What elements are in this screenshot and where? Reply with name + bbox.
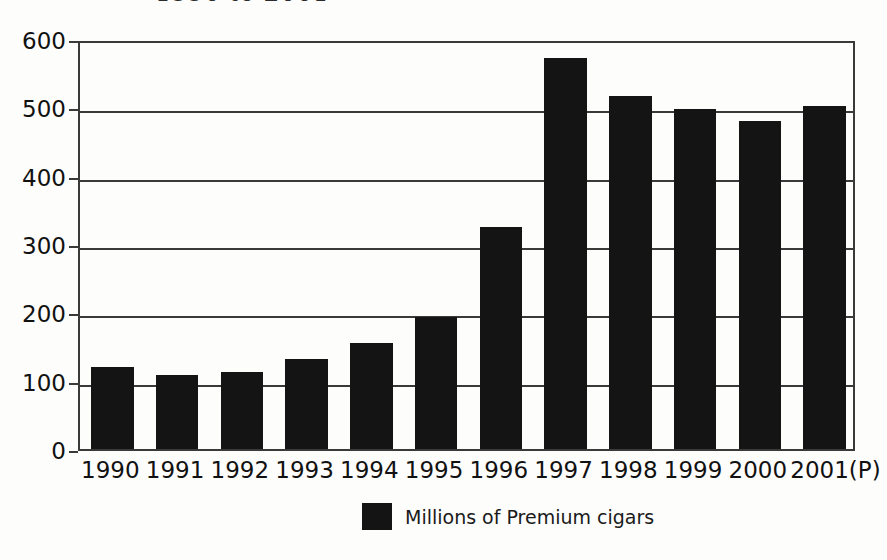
- y-tick-label-200: 200: [6, 301, 66, 327]
- bar-1992: [221, 372, 263, 449]
- y-tick-label-600: 600: [6, 28, 66, 54]
- legend-label-premium-cigars: Millions of Premium cigars: [405, 506, 654, 528]
- bar-1991: [156, 375, 198, 449]
- y-tick-label-100: 100: [6, 370, 66, 396]
- x-tick-label-1993: 1993: [272, 457, 337, 483]
- x-tick-label-1994: 1994: [337, 457, 402, 483]
- legend-swatch-premium-cigars: [362, 503, 392, 530]
- y-tick-label-0: 0: [6, 438, 66, 464]
- x-tick-label-1995: 1995: [402, 457, 467, 483]
- y-tick-mark-0: [69, 451, 78, 453]
- x-tick-label-1990: 1990: [78, 457, 143, 483]
- bar-1996: [480, 227, 522, 449]
- y-tick-mark-600: [69, 41, 78, 43]
- bar-2000: [739, 121, 781, 449]
- y-tick-mark-500: [69, 109, 78, 111]
- y-tick-mark-400: [69, 178, 78, 180]
- bar-1993: [285, 359, 327, 449]
- y-tick-label-300: 300: [6, 233, 66, 259]
- x-tick-label-2001(P): 2001(P): [790, 457, 855, 483]
- bar-1999: [674, 109, 716, 449]
- bar-1995: [415, 317, 457, 449]
- y-tick-label-500: 500: [6, 96, 66, 122]
- chart-page: 1990 to 2001 0100200300400500600 1990199…: [0, 0, 887, 560]
- x-tick-label-1996: 1996: [467, 457, 532, 483]
- bar-2001(P): [803, 106, 845, 449]
- gridline-200: [80, 316, 853, 318]
- plot-area: [78, 41, 855, 451]
- x-tick-label-1991: 1991: [143, 457, 208, 483]
- bar-1998: [609, 96, 651, 449]
- y-tick-mark-100: [69, 383, 78, 385]
- y-tick-mark-200: [69, 314, 78, 316]
- legend: Millions of Premium cigars: [362, 503, 654, 530]
- bar-1994: [350, 343, 392, 449]
- y-tick-label-400: 400: [6, 165, 66, 191]
- page-title: 1990 to 2001: [155, 0, 329, 7]
- gridline-500: [80, 111, 853, 113]
- x-tick-label-2000: 2000: [726, 457, 791, 483]
- bar-1997: [544, 58, 586, 449]
- bar-1990: [91, 367, 133, 449]
- gridline-400: [80, 180, 853, 182]
- x-tick-label-1998: 1998: [596, 457, 661, 483]
- y-tick-mark-300: [69, 246, 78, 248]
- x-tick-label-1997: 1997: [531, 457, 596, 483]
- gridline-300: [80, 248, 853, 250]
- x-tick-label-1999: 1999: [661, 457, 726, 483]
- x-tick-label-1992: 1992: [208, 457, 273, 483]
